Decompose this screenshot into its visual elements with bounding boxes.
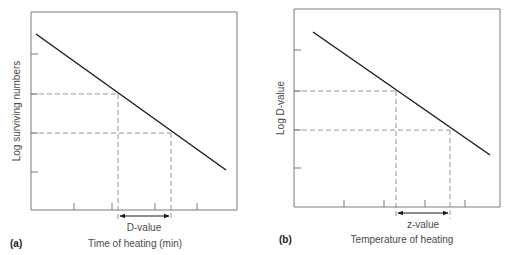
figure: D-value Log surviving numbers Time of he… — [0, 0, 506, 255]
panel-label-b: (b) — [279, 234, 292, 245]
panel-label-a: (a) — [10, 238, 22, 249]
thermal-death-curve — [313, 32, 490, 155]
panel-b: z-value Log D-value Temperature of heati… — [275, 9, 500, 245]
x-axis-label-a: Time of heating (min) — [88, 238, 182, 249]
x-axis-label-b: Temperature of heating — [351, 234, 454, 245]
y-axis-label-b: Log D-value — [275, 81, 286, 135]
plot-frame-b — [294, 9, 500, 207]
z-value-label: z-value — [407, 219, 440, 230]
panel-a: D-value Log surviving numbers Time of he… — [10, 12, 237, 249]
d-value-label: D-value — [127, 222, 162, 233]
y-axis-label-a: Log surviving numbers — [11, 61, 22, 162]
plot-frame-a — [31, 12, 237, 210]
survival-curve — [36, 34, 226, 170]
